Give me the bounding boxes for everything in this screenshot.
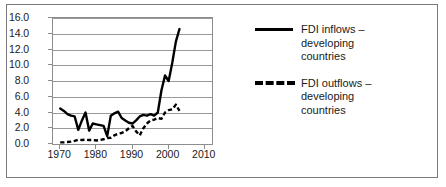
y-tick-label: 8.0 bbox=[0, 75, 29, 85]
y-tick-label: 10.0 bbox=[0, 59, 29, 69]
x-tick-mark bbox=[168, 145, 169, 149]
x-tick-mark bbox=[204, 145, 205, 149]
legend-label-line2: developing bbox=[301, 90, 433, 104]
x-tick-label: 2010 bbox=[181, 149, 227, 160]
figure-frame: 0.02.04.06.08.010.012.014.016.0 19701980… bbox=[6, 4, 438, 178]
y-tick-label: 16.0 bbox=[0, 12, 29, 22]
legend-item-fdi-outflows: FDI outflows – developing countries bbox=[253, 77, 433, 118]
line-fdi-outflows bbox=[60, 105, 179, 143]
y-tick-label: 4.0 bbox=[0, 107, 29, 117]
legend-label-line3: countries bbox=[301, 50, 433, 64]
solid-line-swatch bbox=[255, 28, 293, 31]
y-tick-label: 0.0 bbox=[0, 138, 29, 148]
x-tick-mark bbox=[59, 145, 60, 149]
legend-label-line2: developing bbox=[301, 37, 433, 51]
dashed-line-swatch bbox=[255, 81, 295, 85]
legend-item-fdi-inflows: FDI inflows – developing countries bbox=[253, 23, 433, 64]
y-tick-label: 14.0 bbox=[0, 28, 29, 38]
chart-area: 0.02.04.06.08.010.012.014.016.0 19701980… bbox=[7, 5, 237, 177]
legend-label-line1: FDI inflows – bbox=[301, 23, 433, 37]
chart-legend: FDI inflows – developing countries FDI o… bbox=[253, 23, 433, 131]
legend-label-line3: countries bbox=[301, 104, 433, 118]
series-lines bbox=[53, 18, 212, 144]
x-tick-mark bbox=[95, 145, 96, 149]
legend-label-line1: FDI outflows – bbox=[301, 77, 433, 91]
line-fdi-inflows bbox=[60, 29, 179, 136]
x-tick-mark bbox=[132, 145, 133, 149]
y-tick-label: 12.0 bbox=[0, 44, 29, 54]
y-tick-label: 2.0 bbox=[0, 122, 29, 132]
plot-frame bbox=[52, 17, 213, 145]
y-tick-label: 6.0 bbox=[0, 91, 29, 101]
